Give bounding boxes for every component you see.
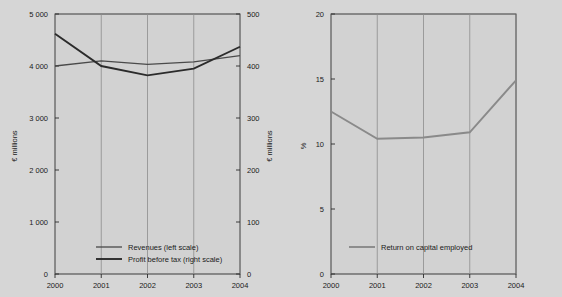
x-axis-tick-label: 2001 bbox=[93, 281, 110, 290]
roce-chart: 05101520%20002001200220032004Return on c… bbox=[281, 0, 562, 297]
y-axis-tick-label: 20 bbox=[316, 10, 324, 19]
x-axis-tick-label: 2002 bbox=[139, 281, 156, 290]
y-axis-tick-label: 15 bbox=[316, 75, 324, 84]
y-axis-tick-label: 1 000 bbox=[29, 218, 48, 227]
y-axis-tick-label: 5 bbox=[320, 205, 324, 214]
y-axis-title: % bbox=[299, 142, 308, 149]
y2-axis-tick-label: 300 bbox=[247, 114, 260, 123]
revenues-profit-plot: 01 0002 0003 0004 0005 000€ millions0100… bbox=[0, 0, 281, 297]
y2-axis-tick-label: 200 bbox=[247, 166, 260, 175]
revenues-profit-chart: 01 0002 0003 0004 0005 000€ millions0100… bbox=[0, 0, 281, 297]
y-axis-tick-label: 3 000 bbox=[29, 114, 48, 123]
y2-axis-tick-label: 400 bbox=[247, 62, 260, 71]
x-axis-tick-label: 2001 bbox=[369, 281, 386, 290]
y2-axis-tick-label: 100 bbox=[247, 218, 260, 227]
y-axis-tick-label: 5 000 bbox=[29, 10, 48, 19]
y-axis-tick-label: 4 000 bbox=[29, 62, 48, 71]
x-axis-tick-label: 2000 bbox=[323, 281, 340, 290]
x-axis-tick-label: 2002 bbox=[415, 281, 432, 290]
y-axis-title: € millions bbox=[10, 130, 19, 162]
roce-plot: 05101520%20002001200220032004Return on c… bbox=[281, 0, 562, 297]
y-axis-tick-label: 10 bbox=[316, 140, 324, 149]
y-axis-tick-label: 0 bbox=[320, 270, 324, 279]
y-axis-tick-label: 2 000 bbox=[29, 166, 48, 175]
y2-axis-title: € millions bbox=[265, 130, 274, 162]
x-axis-tick-label: 2003 bbox=[461, 281, 478, 290]
y2-axis-tick-label: 0 bbox=[247, 270, 251, 279]
y2-axis-tick-label: 500 bbox=[247, 10, 260, 19]
x-axis-tick-label: 2000 bbox=[47, 281, 64, 290]
legend-label-0: Revenues (left scale) bbox=[128, 243, 199, 252]
y-axis-tick-label: 0 bbox=[44, 270, 48, 279]
legend-label-1: Profit before tax (right scale) bbox=[128, 255, 223, 264]
legend-label-0: Return on capital employed bbox=[381, 243, 472, 252]
x-axis-tick-label: 2003 bbox=[185, 281, 202, 290]
x-axis-tick-label: 2004 bbox=[508, 281, 525, 290]
figure-container: 01 0002 0003 0004 0005 000€ millions0100… bbox=[0, 0, 562, 297]
x-axis-tick-label: 2004 bbox=[232, 281, 249, 290]
